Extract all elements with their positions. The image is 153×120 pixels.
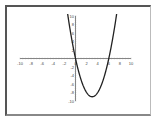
y-tick-label: -4 bbox=[70, 73, 74, 78]
x-tick-label: 10 bbox=[129, 61, 134, 66]
y-tick-label: 6 bbox=[72, 31, 75, 36]
x-tick-label: -2 bbox=[63, 61, 67, 66]
x-tick-label: -6 bbox=[40, 61, 44, 66]
chart-plot: -10-8-6-4-20246810-10-8-6-4-2246810 bbox=[0, 0, 153, 120]
y-tick-label: -10 bbox=[68, 99, 75, 104]
x-tick-label: 2 bbox=[85, 61, 88, 66]
y-tick-label: 10 bbox=[70, 14, 75, 19]
x-tick-label: 8 bbox=[119, 61, 122, 66]
y-tick-label: 8 bbox=[72, 22, 75, 27]
y-tick-label: -6 bbox=[70, 82, 74, 87]
x-tick-label: -10 bbox=[17, 61, 24, 66]
y-tick-label: -8 bbox=[70, 90, 74, 95]
x-tick-label: 4 bbox=[97, 61, 100, 66]
x-tick-label: -4 bbox=[52, 61, 56, 66]
x-tick-label: -8 bbox=[29, 61, 33, 66]
parabola-curve bbox=[67, 11, 117, 97]
